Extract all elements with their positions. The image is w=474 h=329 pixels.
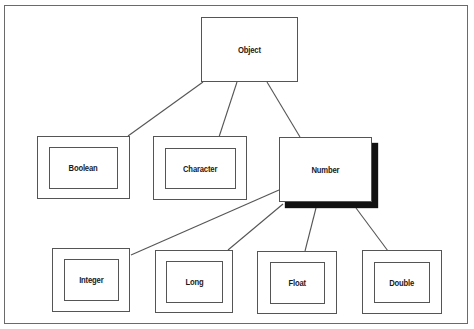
node-long-label: Long [185,277,203,287]
node-boolean: Boolean [37,136,130,199]
edge-number-double [356,208,388,251]
node-object: Object [201,17,298,82]
node-double: Double [362,250,442,314]
node-number-label: Number [312,165,340,175]
node-character: Character [153,136,247,200]
node-character-label: Character [183,164,217,174]
node-integer: Integer [52,248,130,312]
edge-number-long [228,204,283,250]
node-long: Long [155,250,233,313]
node-float: Float [257,251,337,314]
edge-object-character [219,82,237,137]
node-object-label: Object [238,45,261,55]
node-long-inner: Long [166,261,223,303]
edge-object-boolean [128,82,203,136]
node-double-inner: Double [374,262,430,303]
edge-number-float [305,208,316,251]
node-double-label: Double [390,278,415,288]
node-integer-label: Integer [79,275,103,285]
edge-object-number [267,82,300,137]
node-integer-inner: Integer [64,259,119,301]
node-float-label: Float [289,278,306,288]
node-number: Number [279,137,372,202]
node-boolean-inner: Boolean [49,147,118,189]
node-boolean-label: Boolean [69,163,98,173]
node-character-inner: Character [165,148,236,189]
node-float-inner: Float [270,262,325,304]
